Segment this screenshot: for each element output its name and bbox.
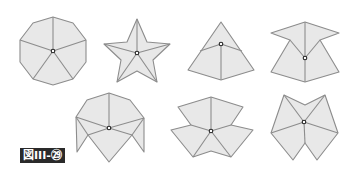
center-hub-icon <box>107 126 111 130</box>
center-hub-icon <box>135 51 139 55</box>
center-hub-icon <box>51 49 55 53</box>
shape-triangular-pyramid <box>188 22 254 80</box>
shape-five-point-star <box>104 19 170 82</box>
center-hub-icon <box>303 56 307 60</box>
shape-spread-fan <box>171 97 253 157</box>
shape-dome-with-legs <box>76 93 144 162</box>
shape-decagon <box>20 17 86 85</box>
shape-outline <box>171 97 253 157</box>
shape-tent-with-wings <box>271 22 339 82</box>
center-hub-icon <box>219 42 223 46</box>
shape-inverted-star <box>271 95 338 160</box>
figure-label: 図III-㉙ <box>20 148 65 163</box>
center-hub-icon <box>209 129 213 133</box>
center-hub-icon <box>302 120 306 124</box>
